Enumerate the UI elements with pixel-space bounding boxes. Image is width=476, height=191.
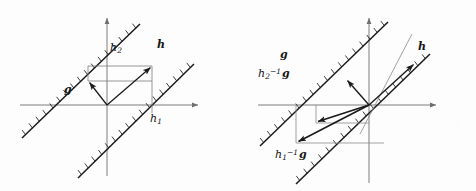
label-h2: h2 bbox=[110, 42, 122, 55]
vector-h bbox=[369, 65, 414, 106]
label-h-vector: h bbox=[157, 39, 165, 50]
label-h-vector: h bbox=[418, 41, 426, 52]
label-h1-inverse-g: h1−1g bbox=[275, 149, 307, 162]
figure-container: h2 h g h1 bbox=[0, 0, 476, 191]
left-panel: h2 h g h1 bbox=[0, 0, 238, 191]
right-panel-canvas bbox=[238, 0, 476, 191]
thin-ray-diagonal bbox=[360, 34, 412, 134]
label-h2-inverse-g: h2−1g bbox=[258, 68, 290, 81]
vector-h bbox=[107, 68, 151, 106]
construction-lines bbox=[88, 66, 152, 113]
left-panel-canvas bbox=[0, 0, 238, 191]
vector-g bbox=[90, 83, 108, 106]
label-h1: h1 bbox=[150, 113, 162, 126]
vector-h2-inv-g-up bbox=[348, 81, 370, 106]
right-panel: g h h2−1g h1−1g bbox=[238, 0, 476, 191]
label-g-vector: g bbox=[64, 84, 72, 95]
label-g-line: g bbox=[280, 49, 288, 60]
